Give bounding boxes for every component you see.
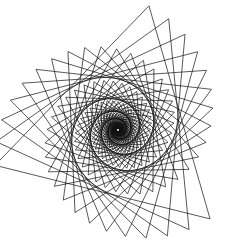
spiral-figure-container: Whirling Triangles Spiral Nested rotatin… [0,0,238,249]
whirling-triangles-canvas [0,0,238,249]
